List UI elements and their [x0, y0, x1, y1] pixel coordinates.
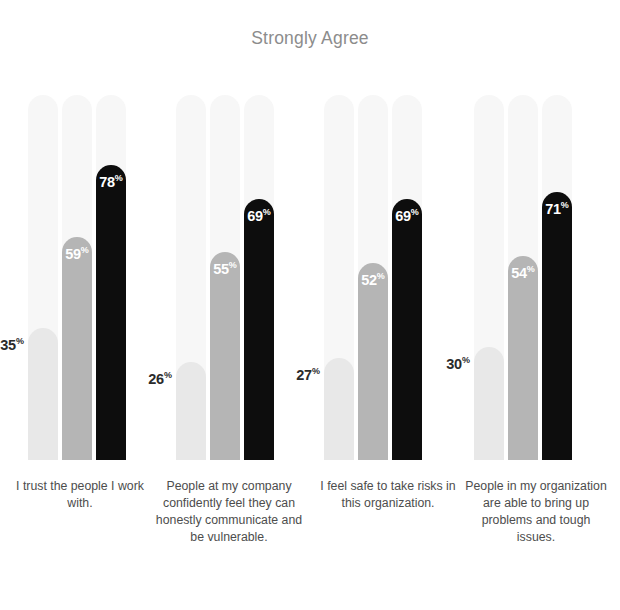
bar-value-label: 59% — [62, 246, 92, 261]
category-label: I trust the people I work with. — [10, 478, 150, 512]
percent-sign: % — [16, 336, 24, 346]
category-label: I feel safe to take risks in this organi… — [312, 478, 464, 512]
bar-value-label: 55% — [210, 261, 240, 276]
bar[interactable] — [324, 358, 354, 460]
bar-value-number: 27 — [296, 367, 312, 383]
bar-chart: Strongly Agree 35%59%78%26%55%69%27%52%6… — [0, 0, 620, 610]
bar[interactable] — [244, 199, 274, 460]
bar[interactable] — [508, 256, 538, 460]
bar-value-label: 26% — [142, 371, 172, 386]
bar-value-label: 30% — [440, 356, 470, 371]
bar-value-number: 69 — [247, 208, 263, 224]
bar-slot: 59% — [62, 95, 92, 460]
bar-value-number: 35 — [0, 337, 16, 353]
bar-value-label: 54% — [508, 265, 538, 280]
bar-value-label: 35% — [0, 337, 24, 352]
bar-value-number: 71 — [545, 201, 561, 217]
bar-group: 30%54%71% — [474, 95, 576, 460]
bar[interactable] — [474, 347, 504, 460]
bar-value-number: 26 — [148, 371, 164, 387]
bar[interactable] — [358, 263, 388, 460]
bar-slot: 71% — [542, 95, 572, 460]
bar-slot: 69% — [392, 95, 422, 460]
bar-value-label: 69% — [244, 208, 274, 223]
bar-value-number: 54 — [511, 265, 527, 281]
bar[interactable] — [176, 362, 206, 460]
bar-slot: 26% — [176, 95, 206, 460]
percent-sign: % — [411, 207, 419, 217]
bar-value-number: 59 — [65, 246, 81, 262]
bar-value-number: 52 — [361, 272, 377, 288]
percent-sign: % — [561, 200, 569, 210]
percent-sign: % — [527, 264, 535, 274]
percent-sign: % — [115, 173, 123, 183]
bar-group: 26%55%69% — [176, 95, 278, 460]
bar[interactable] — [542, 192, 572, 460]
chart-title: Strongly Agree — [0, 28, 620, 49]
bar[interactable] — [28, 328, 58, 460]
bar-value-number: 55 — [213, 261, 229, 277]
bar-value-label: 71% — [542, 201, 572, 216]
bar-slot: 69% — [244, 95, 274, 460]
percent-sign: % — [377, 271, 385, 281]
bar-value-number: 69 — [395, 208, 411, 224]
bar-group: 27%52%69% — [324, 95, 426, 460]
plot-area: 35%59%78%26%55%69%27%52%69%30%54%71% — [0, 95, 620, 460]
percent-sign: % — [164, 370, 172, 380]
bar[interactable] — [392, 199, 422, 460]
bar-value-label: 69% — [392, 208, 422, 223]
bar-slot: 78% — [96, 95, 126, 460]
percent-sign: % — [462, 355, 470, 365]
bar-value-number: 78 — [99, 174, 115, 190]
category-label: People in my organization are able to br… — [462, 478, 610, 546]
bar-value-label: 52% — [358, 272, 388, 287]
bar-slot: 52% — [358, 95, 388, 460]
bar[interactable] — [96, 165, 126, 460]
bar-slot: 30% — [474, 95, 504, 460]
percent-sign: % — [81, 245, 89, 255]
percent-sign: % — [229, 260, 237, 270]
bar-slot: 35% — [28, 95, 58, 460]
percent-sign: % — [312, 366, 320, 376]
bar-slot: 55% — [210, 95, 240, 460]
bar-value-label: 78% — [96, 174, 126, 189]
bar-value-label: 27% — [290, 367, 320, 382]
bar-value-number: 30 — [446, 356, 462, 372]
category-label: People at my company confidently feel th… — [150, 478, 308, 546]
bar-slot: 54% — [508, 95, 538, 460]
bar-group: 35%59%78% — [28, 95, 130, 460]
percent-sign: % — [263, 207, 271, 217]
bar-slot: 27% — [324, 95, 354, 460]
bar[interactable] — [210, 252, 240, 460]
bar[interactable] — [62, 237, 92, 460]
